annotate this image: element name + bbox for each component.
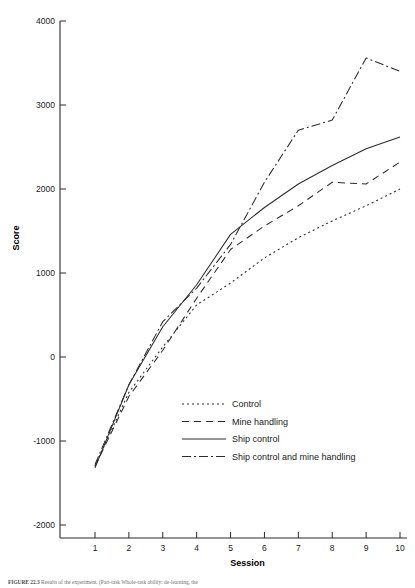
x-axis-title: Session [230,558,265,568]
x-tick-label: 1 [93,543,98,553]
line-chart: -2000-10000100020003000400012345678910Se… [0,0,415,588]
x-tick-label: 7 [296,543,301,553]
x-tick-label: 3 [160,543,165,553]
y-tick-label: -2000 [33,520,55,530]
figure-caption: FIGURE 22.3 Results of the experiment. (… [8,579,408,588]
x-tick-label: 2 [127,543,132,553]
y-tick-label: -1000 [33,436,55,446]
x-tick-label: 5 [228,543,233,553]
y-tick-label: 1000 [36,268,55,278]
y-tick-label: 2000 [36,184,55,194]
x-tick-label: 4 [194,543,199,553]
figure-container: -2000-10000100020003000400012345678910Se… [0,0,415,588]
figure-caption-label: FIGURE 22.3 [8,579,40,585]
legend-label-control: Control [232,399,261,409]
legend-label-ship-control: Ship control [232,434,280,444]
x-tick-label: 6 [262,543,267,553]
y-tick-label: 3000 [36,100,55,110]
y-tick-label: 4000 [36,16,55,26]
x-tick-label: 9 [364,543,369,553]
legend-label-mine-handling: Mine handling [232,417,288,427]
x-tick-label: 10 [395,543,405,553]
y-tick-label: 0 [50,352,55,362]
y-axis-title: Score [11,225,21,250]
figure-caption-text: Results of the experiment. (Part-task Wh… [41,579,198,585]
legend-label-ship-control-and-mine-handling: Ship control and mine handling [232,452,356,462]
x-tick-label: 8 [330,543,335,553]
